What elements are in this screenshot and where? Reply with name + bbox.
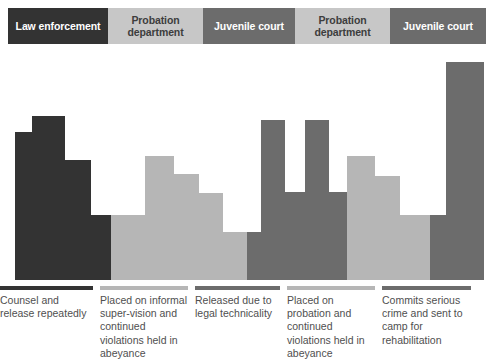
caption-color-rule xyxy=(287,286,375,290)
caption-text: Placed on informal super-vision and cont… xyxy=(100,294,188,360)
stair-step-block xyxy=(329,192,347,280)
stair-step-block xyxy=(145,156,174,280)
staircase-chart xyxy=(0,60,494,282)
caption-color-rule xyxy=(0,286,93,290)
stair-step-block xyxy=(400,215,430,280)
stair-step-block xyxy=(32,116,65,280)
stair-step-block xyxy=(261,120,285,280)
caption-cell: Placed on probation and continued violat… xyxy=(287,281,382,361)
stair-step-block xyxy=(111,215,145,280)
stair-step-block xyxy=(375,176,400,280)
agency-header-cell[interactable]: Law enforcement xyxy=(8,8,108,44)
caption-cell: Counsel and release repeatedly xyxy=(0,281,100,361)
stair-step-block xyxy=(305,120,329,280)
caption-color-rule xyxy=(382,286,471,290)
stair-step-block xyxy=(247,232,261,280)
agency-header-cell[interactable]: Juvenile court xyxy=(390,8,486,44)
stair-step-block xyxy=(15,132,32,280)
caption-cell: Commits serious crime and sent to camp f… xyxy=(382,281,478,361)
caption-cell: Placed on informal super-vision and cont… xyxy=(100,281,195,361)
caption-text: Released due to legal technicality xyxy=(195,294,280,320)
stair-step-block xyxy=(446,62,484,280)
stair-step-block xyxy=(285,192,305,280)
caption-text: Counsel and release repeatedly xyxy=(0,294,93,320)
stair-step-block xyxy=(174,174,199,280)
caption-text: Commits serious crime and sent to camp f… xyxy=(382,294,471,347)
agency-header-band: Law enforcementProbation departmentJuven… xyxy=(8,8,486,44)
caption-color-rule xyxy=(195,286,280,290)
stair-step-block xyxy=(65,160,91,280)
agency-header-cell[interactable]: Probation department xyxy=(295,8,390,44)
stair-step-block xyxy=(430,215,446,280)
caption-text: Placed on probation and continued violat… xyxy=(287,294,375,360)
agency-header-cell[interactable]: Probation department xyxy=(108,8,203,44)
caption-row: Counsel and release repeatedlyPlaced on … xyxy=(0,281,494,361)
agency-header-cell[interactable]: Juvenile court xyxy=(203,8,295,44)
stair-step-block xyxy=(347,156,375,280)
caption-color-rule xyxy=(100,286,188,290)
stair-step-block xyxy=(91,215,111,280)
stair-step-block xyxy=(199,193,223,280)
stair-step-block xyxy=(223,232,247,280)
caption-cell: Released due to legal technicality xyxy=(195,281,287,361)
